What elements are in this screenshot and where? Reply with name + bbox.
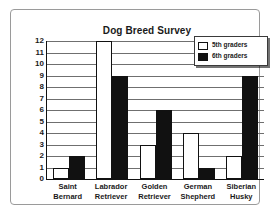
x-axis-labels: SaintBernardLabradorRetrieverGoldenRetri… [46, 182, 263, 210]
y-tick-label: 8 [40, 83, 44, 91]
x-label-line: German [176, 182, 219, 192]
bar-sixth-2 [112, 76, 128, 180]
x-label-line: Retriever [133, 192, 176, 202]
x-label-line: Husky [220, 192, 263, 202]
bar-sixth-4 [199, 168, 215, 180]
y-tick-label: 4 [40, 129, 44, 137]
y-tick-label: 5 [40, 118, 44, 126]
bar-sixth-5 [242, 76, 258, 180]
bar-fifth-1 [53, 168, 69, 180]
x-label-line: Shepherd [176, 192, 219, 202]
x-label-4: GermanShepherd [176, 182, 219, 202]
legend-item-2: 6th graders [198, 51, 264, 62]
x-label-line: Retriever [89, 192, 132, 202]
bar-sixth-1 [69, 156, 85, 179]
chart-title: Dog Breed Survey [31, 25, 263, 36]
chart-legend: 5th graders6th graders [194, 36, 268, 66]
x-label-line: Golden [133, 182, 176, 192]
y-tick-label: 12 [35, 37, 44, 45]
y-tick-label: 0 [40, 175, 44, 183]
bar-fifth-3 [140, 145, 156, 180]
y-tick-label: 7 [40, 95, 44, 103]
black-square-icon [198, 53, 208, 61]
legend-item-1: 5th graders [198, 40, 264, 51]
x-label-2: LabradorRetriever [89, 182, 132, 202]
x-label-1: SaintBernard [46, 182, 89, 202]
x-label-line: Labrador [89, 182, 132, 192]
x-label-line: Saint [46, 182, 89, 192]
bar-fifth-5 [226, 156, 242, 179]
chart-figure: Dog Breed Survey 0123456789101112 SaintB… [0, 0, 272, 216]
y-tick-label: 10 [35, 60, 44, 68]
x-label-line: Siberian [220, 182, 263, 192]
bar-fifth-2 [96, 41, 112, 179]
y-tick-label: 1 [40, 164, 44, 172]
y-tick-label: 9 [40, 72, 44, 80]
y-tick-label: 2 [40, 152, 44, 160]
bar-fifth-4 [183, 133, 199, 179]
bar-sixth-3 [156, 110, 172, 179]
white-square-icon [198, 42, 208, 50]
y-tick-label: 6 [40, 106, 44, 114]
chart-frame: Dog Breed Survey 0123456789101112 SaintB… [10, 9, 260, 205]
x-label-3: GoldenRetriever [133, 182, 176, 202]
x-label-line: Bernard [46, 192, 89, 202]
y-tick-label: 3 [40, 141, 44, 149]
y-tick-label: 11 [36, 49, 44, 57]
legend-label: 6th graders [212, 53, 247, 60]
x-label-5: SiberianHusky [220, 182, 263, 202]
legend-label: 5th graders [212, 42, 247, 49]
